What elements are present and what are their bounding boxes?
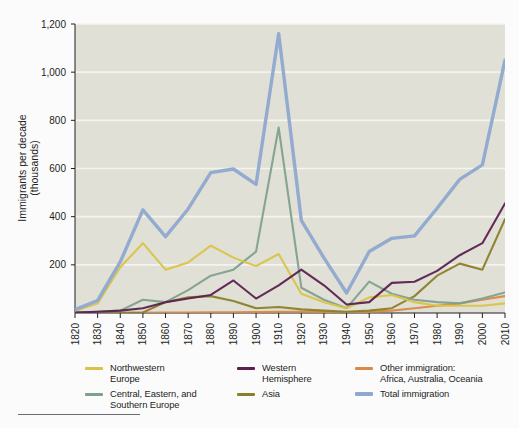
x-tick-label: 1880	[205, 323, 216, 346]
legend-item-northwestern-europe[interactable]: Northwestern Europe	[85, 362, 165, 384]
legend-item-central-eastern-southern-europe[interactable]: Central, Eastern, and Southern Europe	[85, 388, 197, 410]
legend-label-western-hemisphere: Western Hemisphere	[262, 362, 312, 384]
legend-swatch-northwestern-europe	[85, 367, 103, 370]
x-tick-label: 1920	[296, 323, 307, 346]
legend-swatch-total-immigration	[355, 392, 373, 396]
legend-item-western-hemisphere[interactable]: Western Hemisphere	[237, 362, 312, 384]
legend-swatch-asia	[237, 393, 255, 396]
x-tick-label: 1850	[137, 323, 148, 346]
footer-rule	[18, 414, 140, 415]
x-tick-label: 2000	[477, 323, 488, 346]
y-tick-label: 600	[49, 163, 66, 174]
x-tick-label: 1890	[228, 323, 239, 346]
legend-swatch-other-immigration	[355, 367, 373, 370]
x-tick-label: 1870	[183, 323, 194, 346]
y-tick-label: 200	[49, 259, 66, 270]
legend-label-asia: Asia	[262, 388, 280, 399]
legend-item-total-immigration[interactable]: Total immigration	[355, 388, 449, 399]
x-tick-label: 1930	[318, 323, 329, 346]
x-tick-label: 2010	[500, 323, 511, 346]
x-tick-label: 1820	[70, 323, 81, 346]
legend-item-other-immigration[interactable]: Other immigration: Africa, Australia, Oc…	[355, 362, 483, 384]
x-tick-label: 1900	[251, 323, 262, 346]
y-axis-title-line1: Immigrants per decade	[16, 114, 28, 222]
legend-label-central-eastern-southern-europe: Central, Eastern, and Southern Europe	[110, 388, 197, 410]
x-tick-label: 1840	[115, 323, 126, 346]
x-tick-label: 1830	[92, 323, 103, 346]
legend-label-northwestern-europe: Northwestern Europe	[110, 362, 165, 384]
x-tick-label: 1940	[341, 323, 352, 346]
x-tick-label: 1980	[432, 323, 443, 346]
x-tick-label: 1960	[386, 323, 397, 346]
y-axis-title-line2: (thousands)	[28, 140, 40, 195]
legend-label-total-immigration: Total immigration	[380, 388, 449, 399]
x-tick-label: 1910	[273, 323, 284, 346]
legend-label-other-immigration: Other immigration: Africa, Australia, Oc…	[380, 362, 483, 384]
y-tick-label: 400	[49, 211, 66, 222]
y-tick-label: 1,200	[41, 19, 66, 30]
immigration-chart-figure: 2004006008001,0001,200182018301840185018…	[0, 0, 519, 428]
y-tick-label: 800	[49, 115, 66, 126]
legend-item-asia[interactable]: Asia	[237, 388, 280, 399]
legend-swatch-central-eastern-southern-europe	[85, 393, 103, 396]
legend-swatch-western-hemisphere	[237, 367, 255, 370]
x-tick-label: 1860	[160, 323, 171, 346]
x-tick-label: 1950	[364, 323, 375, 346]
x-tick-label: 1970	[409, 323, 420, 346]
y-axis-title: Immigrants per decade(thousands)	[16, 114, 40, 222]
x-tick-label: 1990	[454, 323, 465, 346]
y-tick-label: 1,000	[41, 67, 66, 78]
chart-legend: Northwestern Europe Central, Eastern, an…	[85, 362, 515, 410]
